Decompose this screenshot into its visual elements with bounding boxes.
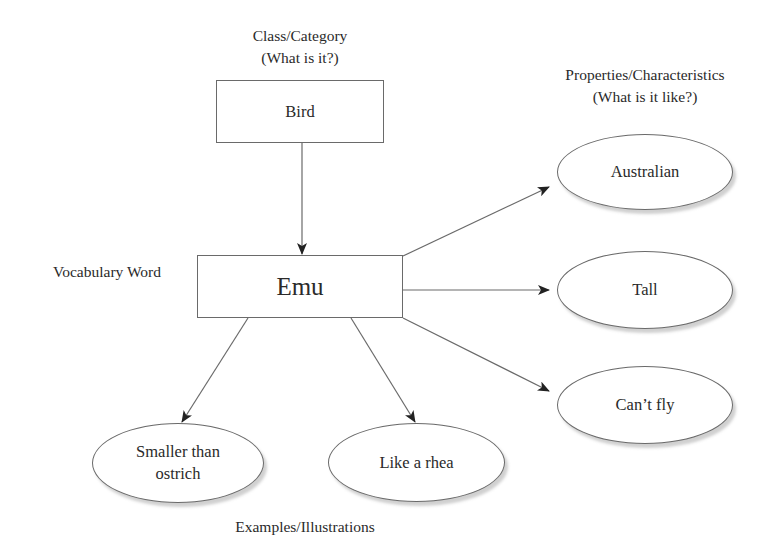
- class-category-label: Class/Category (What is it?): [200, 25, 400, 69]
- property-text: Tall: [632, 279, 657, 301]
- properties-label: Properties/Characteristics (What is it l…: [525, 64, 765, 108]
- vocabulary-word-box: Emu: [197, 255, 403, 318]
- arrow-emu-to-australian: [403, 187, 549, 256]
- property-ellipse-australian: Australian: [557, 134, 733, 210]
- example-text: Like a rhea: [379, 452, 453, 474]
- arrow-emu-to-cant-fly: [403, 318, 549, 391]
- property-ellipse-tall: Tall: [557, 251, 733, 329]
- properties-question: (What is it like?): [525, 86, 765, 108]
- property-ellipse-cant-fly: Can’t fly: [557, 366, 733, 444]
- property-text: Australian: [611, 161, 680, 183]
- category-box: Bird: [216, 80, 384, 143]
- example-text-line1: Smaller than: [136, 441, 220, 463]
- property-text: Can’t fly: [616, 394, 675, 416]
- arrow-emu-to-smaller-than-ostrich: [182, 318, 248, 422]
- example-ellipse-smaller-than-ostrich: Smaller than ostrich: [92, 423, 264, 503]
- arrow-emu-to-like-a-rhea: [351, 318, 415, 422]
- example-ellipse-like-a-rhea: Like a rhea: [328, 423, 505, 502]
- category-text: Bird: [285, 102, 314, 122]
- examples-label: Examples/Illustrations: [205, 516, 405, 538]
- vocabulary-word-label: Vocabulary Word: [28, 261, 186, 283]
- example-text: Smaller than ostrich: [136, 441, 220, 485]
- class-category-title: Class/Category: [200, 25, 400, 47]
- class-category-question: (What is it?): [200, 47, 400, 69]
- properties-title: Properties/Characteristics: [525, 64, 765, 86]
- example-text-line2: ostrich: [136, 463, 220, 485]
- vocabulary-word-text: Emu: [276, 273, 323, 301]
